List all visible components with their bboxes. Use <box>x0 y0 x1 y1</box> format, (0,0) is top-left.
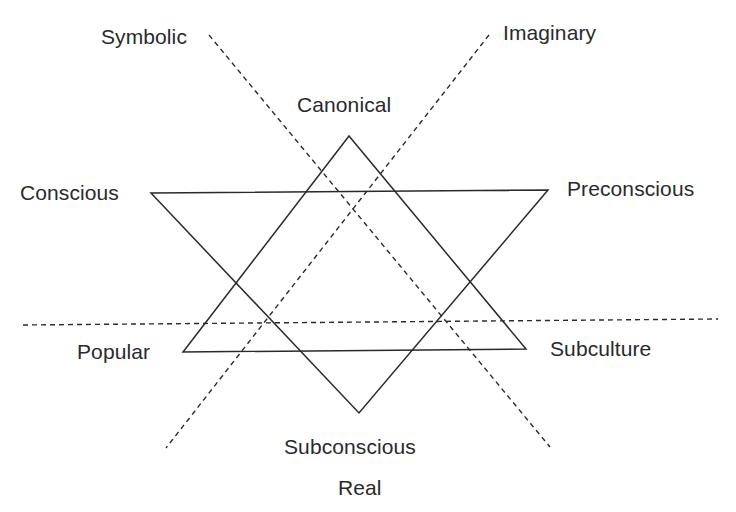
label-preconscious: Preconscious <box>567 178 694 199</box>
diagram-canvas: Symbolic Imaginary Canonical Conscious P… <box>0 0 736 512</box>
label-imaginary: Imaginary <box>503 22 596 43</box>
horizontal-axis <box>23 319 718 325</box>
label-conscious: Conscious <box>20 182 119 203</box>
downward-triangle <box>151 190 548 413</box>
label-symbolic: Symbolic <box>101 26 187 47</box>
label-popular: Popular <box>77 341 150 362</box>
label-canonical: Canonical <box>297 94 391 115</box>
label-subconscious: Subconscious <box>284 436 416 457</box>
label-subculture: Subculture <box>550 338 651 359</box>
upward-triangle <box>183 136 526 352</box>
label-real: Real <box>338 477 382 498</box>
